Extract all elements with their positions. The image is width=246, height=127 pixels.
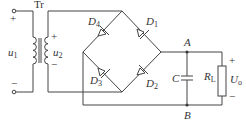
secondary-wire-bottom bbox=[48, 64, 122, 92]
diode-d2-label: D2 bbox=[145, 77, 158, 91]
secondary-plus: + bbox=[51, 30, 57, 42]
diode-d1-label: D1 bbox=[145, 15, 158, 29]
circuit-diagram: Tr + − u1 + − u2 D4 D1 D3 D2 A B C RL + … bbox=[0, 0, 246, 127]
node-b-label: B bbox=[184, 109, 191, 121]
output-wire-top bbox=[161, 52, 222, 66]
secondary-coil bbox=[45, 37, 48, 64]
load-resistor bbox=[218, 66, 226, 96]
resistor-label: RL bbox=[203, 70, 216, 84]
secondary-minus: − bbox=[51, 58, 57, 70]
secondary-wire-top bbox=[48, 11, 122, 37]
primary-wire-top bbox=[16, 11, 33, 37]
output-voltage-label: Uo bbox=[230, 73, 242, 87]
input-terminal-bottom bbox=[12, 90, 16, 94]
diode-d4-label: D4 bbox=[87, 15, 100, 29]
primary-plus: + bbox=[10, 12, 16, 24]
capacitor-label: C bbox=[172, 72, 180, 84]
output-plus: + bbox=[229, 54, 235, 66]
output-minus: − bbox=[229, 90, 235, 102]
primary-wire-bottom bbox=[16, 64, 33, 92]
transformer-label: Tr bbox=[34, 0, 44, 10]
secondary-voltage-label: u2 bbox=[53, 46, 63, 60]
primary-minus: − bbox=[11, 77, 17, 89]
primary-voltage-label: u1 bbox=[8, 46, 18, 60]
primary-coil bbox=[33, 37, 36, 64]
node-a-label: A bbox=[183, 36, 191, 48]
